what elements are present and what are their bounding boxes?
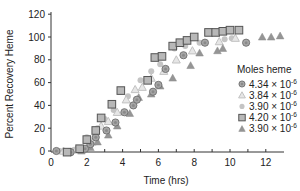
dot-marker [138,77,144,83]
dot-marker [239,104,244,109]
x-tick-label: 10 [224,157,236,168]
square-marker [76,145,84,153]
circle-marker [92,134,99,141]
square-marker [183,37,191,45]
square-marker [212,29,220,37]
square-marker [219,28,227,36]
circle-marker [112,119,119,126]
square-marker [97,114,105,122]
filled-triangle-marker [258,33,266,40]
legend-entry-label: 3.90 × 10-6 [249,122,297,134]
square-marker [92,127,100,135]
square-marker [235,26,243,34]
filled-triangle-marker [219,45,227,52]
square-marker [158,53,166,61]
x-tick-label: 4 [120,157,126,168]
y-tick-label: 100 [28,32,45,43]
square-marker [144,77,152,85]
filled-triangle-marker [239,126,245,132]
y-axis-label: Percent Recovery Heme [4,29,15,138]
legend-entries: 4.34 × 10-63.84 × 10-63.90 × 10-64.20 × … [239,78,298,135]
circle-marker [103,127,110,134]
circle-marker [239,81,245,87]
square-marker [63,148,71,156]
x-tick-label: 6 [156,157,162,168]
square-marker [83,136,91,144]
y-ticks: 020406080100120 [28,9,51,157]
x-tick-label: 0 [48,157,54,168]
open-triangle-marker [188,47,196,54]
circle-marker [155,81,162,88]
legend-entry-label: 3.90 × 10-6 [249,100,297,112]
circle-marker [201,39,208,46]
square-marker [151,54,159,62]
square-marker [205,29,213,37]
x-axis-label: Time (hrs) [143,175,188,186]
open-triangle-marker [239,92,246,98]
circle-marker [149,88,156,95]
square-marker [190,33,198,41]
y-tick-label: 20 [34,123,46,134]
legend-entry-label: 4.34 × 10-6 [249,78,297,90]
y-tick-label: 120 [28,9,45,20]
square-marker [108,100,116,108]
open-triangle-marker [131,85,139,92]
legend-entry-label: 3.84 × 10-6 [249,89,297,101]
y-tick-label: 0 [39,146,45,157]
square-marker [239,114,245,120]
filled-triangle-marker [169,74,177,81]
y-tick-label: 60 [34,77,46,88]
y-tick-label: 40 [34,100,46,111]
filled-triangle-marker [196,49,204,56]
square-marker [169,42,177,50]
circle-marker [121,109,128,116]
circle-marker [162,65,169,72]
x-tick-label: 2 [84,157,90,168]
scatter-chart: 020406080100120 024681012 Percent Recove… [0,0,300,191]
circle-marker [133,96,140,103]
x-tick-label: 8 [191,157,197,168]
filled-triangle-marker [267,33,275,40]
filled-triangle-marker [276,32,284,39]
legend-title: Moles heme [237,64,292,75]
dot-marker [157,61,163,67]
dot-marker [222,36,228,42]
filled-triangle-marker [187,62,195,69]
circle-marker [243,39,250,46]
circle-marker [53,147,60,154]
legend-entry-label: 4.20 × 10-6 [249,111,297,123]
legend: Moles heme 4.34 × 10-63.84 × 10-63.90 × … [237,64,297,134]
x-tick-label: 12 [260,157,272,168]
square-marker [117,87,125,95]
square-marker [176,39,184,47]
y-tick-label: 80 [34,54,46,65]
circle-marker [180,52,187,59]
open-triangle-marker [172,56,180,63]
square-marker [226,26,234,34]
